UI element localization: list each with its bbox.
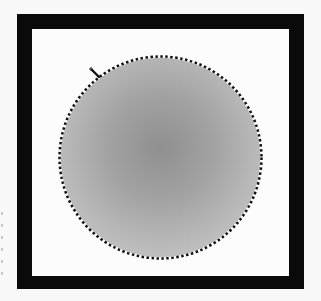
canvas-frame	[17, 14, 304, 289]
marching-ants-selection-outline[interactable]	[58, 55, 263, 260]
marquee-cursor-icon	[88, 66, 100, 78]
ruler-marks	[0, 210, 8, 280]
image-canvas[interactable]	[32, 29, 289, 276]
